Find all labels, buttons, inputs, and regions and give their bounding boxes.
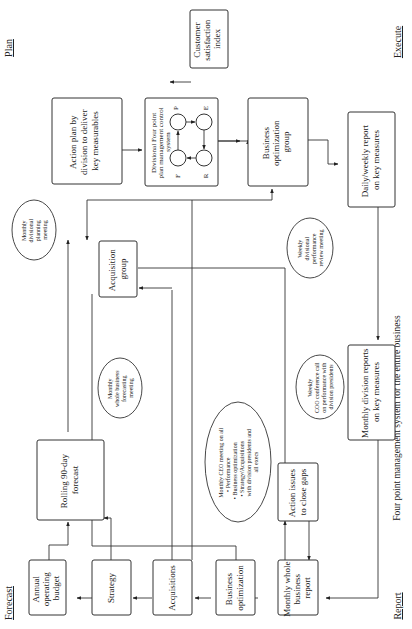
svg-text:Action plan by division: Action plan by division to deliver key m…: [68, 107, 100, 175]
cloud-monthly-whole-forecasting: Monthly whole business forecasting meeti…: [98, 358, 142, 418]
svg-text:Monthly divisional: Monthly divisional planning meeting: [21, 217, 48, 242]
svg-text:Strategy: Strategy: [106, 573, 116, 603]
customer-satisfaction-box: Customer satisfaction index: [190, 10, 228, 68]
label-report: Report: [392, 592, 403, 619]
svg-text:Business optimization: Business optimization: [224, 565, 245, 611]
label-forecast: Forecast: [3, 586, 14, 620]
svg-text:Daily/weekly report on k: Daily/weekly report on key measures: [360, 123, 381, 197]
cloud-monthly-divisional-planning: Monthly divisional planning meeting: [12, 200, 56, 260]
connector: [308, 140, 338, 164]
cycle-node-r: [196, 150, 212, 166]
connector: [192, 189, 272, 200]
svg-text:R: R: [202, 173, 210, 178]
svg-text:Acquisitions: Acquisitions: [167, 565, 177, 611]
svg-text:P: P: [172, 106, 180, 110]
business-optimization-box: Business optimization: [216, 560, 255, 615]
four-point-management-diagram: Plan Execute Forecast Report Four point …: [0, 0, 412, 629]
label-plan: Plan: [3, 39, 14, 57]
monthly-division-reports-box: Monthly division reports on key measures: [348, 345, 395, 440]
business-optimization-group-box: Business optimization group: [248, 98, 308, 186]
svg-text:E: E: [202, 106, 210, 110]
monthly-whole-report-box: Monthly whole business report: [278, 559, 318, 617]
cloud-monthly-ceo-meeting: Monthly CEO meeting on all • Performance…: [205, 402, 271, 522]
svg-text:Action issues to close g: Action issues to close gaps: [287, 467, 308, 518]
cloud-weekly-divisional-review: Weekly divisional performance review mee…: [287, 218, 333, 278]
cycle-node-p: [170, 114, 186, 130]
acquisition-group-box: Acquisition group: [99, 241, 137, 297]
svg-text:F: F: [174, 174, 182, 178]
connector: [104, 518, 111, 560]
cycle-node-f: [170, 150, 186, 166]
cloud-weekly-coo-call: Weekly COO conference call on performanc…: [296, 355, 344, 419]
annual-budget-box: Annual operating budget: [29, 560, 66, 615]
action-plan-box: Action plan by division to deliver key m…: [52, 98, 122, 184]
strategy-box: Strategy: [92, 560, 131, 615]
rolling-forecast-box: Rolling 90-day forecast: [37, 440, 104, 520]
daily-weekly-report-box: Daily/weekly report on key measures: [348, 112, 395, 207]
cycle-node-e: [196, 114, 212, 130]
connector: [49, 522, 68, 560]
acquisitions-box: Acquisitions: [153, 560, 192, 615]
label-execute: Execute: [392, 25, 403, 58]
divisional-four-point-box: Divisional Four point plan management co…: [145, 98, 218, 186]
action-issues-box: Action issues to close gaps: [278, 463, 318, 521]
